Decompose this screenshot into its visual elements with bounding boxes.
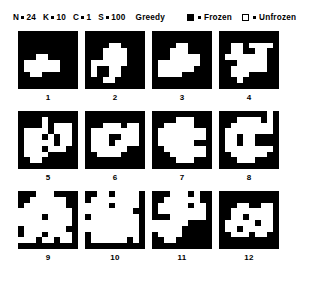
parameter-name: N	[13, 13, 19, 22]
equals-square-icon	[81, 16, 84, 19]
equals-square-icon	[106, 16, 109, 19]
lattice-panel-3	[152, 31, 212, 89]
equals-square-icon	[198, 16, 201, 19]
lattice-site	[206, 163, 212, 169]
parameter-k: K10	[43, 13, 66, 22]
panel-label: 6	[113, 174, 118, 182]
filled-square-icon	[187, 14, 194, 21]
method-label: Greedy	[136, 13, 165, 22]
lattice-panel-4	[219, 31, 279, 89]
lattice-site	[273, 163, 279, 169]
parameter-name: S	[98, 13, 104, 22]
panel-cell-6: 6	[85, 111, 145, 191]
panel-cell-1: 1	[18, 31, 78, 111]
empty-square-icon	[242, 14, 249, 21]
lattice-site	[273, 83, 279, 89]
legend-label: Frozen	[204, 13, 232, 22]
lattice-site	[72, 83, 78, 89]
panel-cell-10: 10	[85, 191, 145, 271]
panel-label: 8	[247, 174, 252, 182]
parameter-c: C1	[73, 13, 91, 22]
panel-cell-9: 9	[18, 191, 78, 271]
lattice-panel-10	[85, 191, 145, 249]
panel-label: 7	[180, 174, 185, 182]
lattice-panel-2	[85, 31, 145, 89]
lattice-panel-6	[85, 111, 145, 169]
panel-cell-5: 5	[18, 111, 78, 191]
panel-label: 3	[180, 94, 185, 102]
panel-label: 11	[177, 254, 186, 262]
panel-cell-4: 4	[219, 31, 279, 111]
parameter-name: C	[73, 13, 79, 22]
panel-label: 12	[244, 254, 254, 262]
lattice-site	[139, 163, 145, 169]
panel-cell-7: 7	[152, 111, 212, 191]
lattice-panel-11	[152, 191, 212, 249]
lattice-site	[206, 83, 212, 89]
panel-cell-12: 12	[219, 191, 279, 271]
lattice-panel-5	[18, 111, 78, 169]
lattice-panel-12	[219, 191, 279, 249]
lattice-site	[273, 243, 279, 249]
panel-label: 4	[247, 94, 252, 102]
panel-label: 9	[46, 254, 51, 262]
equals-square-icon	[21, 16, 24, 19]
legend-entry-unfrozen: Unfrozen	[242, 13, 296, 22]
lattice-site	[139, 83, 145, 89]
figure-header: N24K10C1S100 Greedy FrozenUnfrozen	[0, 10, 315, 24]
panel-grid: 123456789101112	[18, 31, 298, 271]
parameter-value: 10	[57, 13, 67, 22]
lattice-panel-9	[18, 191, 78, 249]
panel-cell-3: 3	[152, 31, 212, 111]
legend: FrozenUnfrozen	[187, 13, 296, 22]
lattice-site	[72, 243, 78, 249]
parameter-list: N24K10C1S100	[13, 13, 126, 22]
panel-cell-2: 2	[85, 31, 145, 111]
legend-label: Unfrozen	[259, 13, 296, 22]
equals-square-icon	[51, 16, 54, 19]
parameter-n: N24	[13, 13, 36, 22]
parameter-s: S100	[98, 13, 125, 22]
panel-label: 5	[46, 174, 51, 182]
lattice-site	[139, 243, 145, 249]
parameter-value: 1	[87, 13, 92, 22]
legend-entry-frozen: Frozen	[187, 13, 232, 22]
parameter-name: K	[43, 13, 49, 22]
lattice-site	[72, 163, 78, 169]
lattice-panel-8	[219, 111, 279, 169]
panel-cell-11: 11	[152, 191, 212, 271]
panel-label: 10	[110, 254, 120, 262]
lattice-panel-1	[18, 31, 78, 89]
parameter-value: 100	[111, 13, 125, 22]
panel-label: 1	[46, 94, 51, 102]
panel-label: 2	[113, 94, 118, 102]
equals-square-icon	[253, 16, 256, 19]
lattice-site	[206, 243, 212, 249]
parameter-value: 24	[27, 13, 37, 22]
lattice-panel-7	[152, 111, 212, 169]
panel-cell-8: 8	[219, 111, 279, 191]
figure-container: N24K10C1S100 Greedy FrozenUnfrozen 12345…	[0, 0, 315, 286]
